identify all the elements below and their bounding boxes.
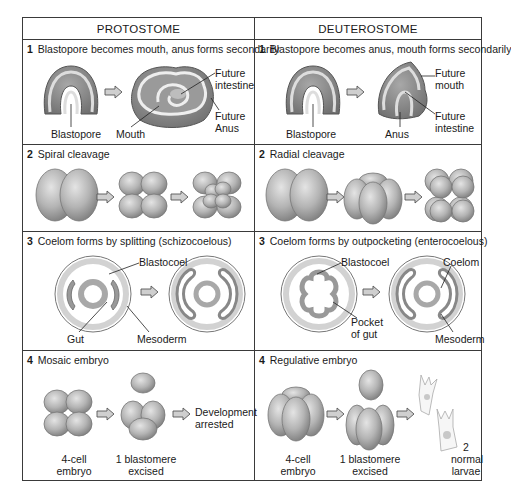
leader-lines xyxy=(255,40,481,144)
label-development-arrested: Developmentarrested xyxy=(195,406,257,430)
comparison-table: PROTOSTOME DEUTEROSTOME 1 Blastopore bec… xyxy=(22,17,482,481)
mosaic-four-cell-illustration xyxy=(43,389,93,437)
regulative-excised-illustration xyxy=(345,369,395,451)
arrow-icon xyxy=(173,408,191,420)
leader-lines xyxy=(23,232,254,350)
protostome-embryo-type-cell: 4 Mosaic embryo Developmentarrested 4-ce… xyxy=(23,351,254,481)
label-blastomere-excised: 1 blastomereexcised xyxy=(111,453,181,477)
column-header-protostome: PROTOSTOME xyxy=(23,18,254,39)
deuterostome-cleavage-cell: 2 Radial cleavage xyxy=(255,145,481,231)
label-four-cell-embryo: 4-cellembryo xyxy=(273,453,323,477)
arrow-icon xyxy=(171,191,189,203)
deuterostome-coelom-cell: 3 Coelom forms by outpocketing (enteroco… xyxy=(255,232,481,350)
arrow-icon xyxy=(397,408,415,420)
label-normal-larvae: 2normallarvae xyxy=(451,441,481,477)
protostome-coelom-cell: 3 Coelom forms by splitting (schizocoelo… xyxy=(23,232,254,350)
deuterostome-embryo-type-cell: 4 Regulative embryo 2normallarvae 4-cell… xyxy=(255,351,481,481)
leader-lines xyxy=(23,40,254,144)
four-cell-radial-illustration xyxy=(343,171,403,225)
label-four-cell-embryo: 4-cellembryo xyxy=(49,453,99,477)
two-cell-embryo-illustration xyxy=(265,167,329,223)
deuterostome-blastopore-cell: 1 Blastopore becomes anus, mouth forms s… xyxy=(255,40,481,144)
label-blastomere-excised: 1 blastomereexcised xyxy=(335,453,405,477)
arrow-icon xyxy=(97,191,115,203)
step-heading: 2 Radial cleavage xyxy=(259,148,344,160)
four-cell-embryo-illustration xyxy=(118,171,168,219)
step-heading: 4 Regulative embryo xyxy=(259,354,357,366)
step-heading: 2 Spiral cleavage xyxy=(27,148,110,160)
mosaic-excised-illustration xyxy=(119,371,169,443)
arrow-icon xyxy=(405,191,423,203)
arrow-icon xyxy=(327,408,345,420)
eight-cell-spiral-illustration xyxy=(191,169,243,221)
protostome-blastopore-cell: 1 Blastopore becomes mouth, anus forms s… xyxy=(23,40,254,144)
arrow-icon xyxy=(97,408,115,420)
regulative-four-cell-illustration xyxy=(267,385,325,443)
column-header-deuterostome: DEUTEROSTOME xyxy=(255,18,481,39)
protostome-cleavage-cell: 2 Spiral cleavage xyxy=(23,145,254,231)
eight-cell-radial-illustration xyxy=(423,167,475,223)
step-heading: 4 Mosaic embryo xyxy=(27,354,109,366)
leader-lines xyxy=(255,232,481,350)
two-cell-embryo-illustration xyxy=(35,167,99,223)
